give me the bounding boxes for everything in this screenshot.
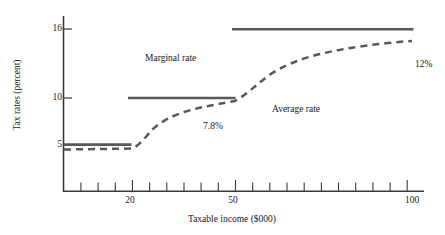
average-rate-series xyxy=(64,41,412,150)
y-tick-label-10: 10 xyxy=(46,92,62,102)
x-axis-ticks xyxy=(81,180,407,191)
y-axis-ticks xyxy=(64,29,73,145)
x-tick-label-20: 20 xyxy=(118,195,142,205)
average-rate-value-at-50: 7.8% xyxy=(203,121,223,131)
average-rate-value-at-100: 12% xyxy=(415,59,432,69)
x-tick-label-50: 50 xyxy=(221,195,245,205)
marginal-rate-label: Marginal rate xyxy=(145,53,196,63)
y-axis-title: Tax rates (percent) xyxy=(12,45,22,145)
tax-rates-chart: Tax rates (percent) Taxable income ($000… xyxy=(0,0,445,235)
x-tick-label-100: 100 xyxy=(399,195,425,205)
y-tick-label-16: 16 xyxy=(46,23,62,33)
average-rate-label: Average rate xyxy=(272,104,320,114)
y-tick-label-5: 5 xyxy=(46,139,62,149)
x-axis-title: Taxable income ($000) xyxy=(142,214,322,224)
